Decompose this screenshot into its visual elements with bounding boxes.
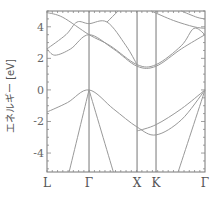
- band-curves: [47, 11, 205, 172]
- y-tick-minus-2: -2: [28, 115, 44, 128]
- band-conduction-5: [151, 11, 205, 28]
- band-valence-2: [137, 90, 205, 131]
- y-axis-label: エネルギー [eV]: [2, 36, 16, 156]
- y-tick-minus-4: -4: [28, 147, 44, 160]
- band-valence-5: [178, 90, 205, 172]
- y-tick-2: 2: [28, 52, 44, 65]
- x-tick-gamma-end: Γ: [198, 176, 212, 190]
- high-symmetry-lines: [89, 11, 156, 172]
- x-tick-K: K: [149, 176, 163, 190]
- band-valence-3: [69, 90, 89, 172]
- band-valence-1: [47, 90, 205, 135]
- band-conduction-1: [47, 35, 205, 69]
- band-conduction-3: [47, 21, 137, 65]
- band-conduction-4: [107, 11, 118, 22]
- x-tick-gamma: Γ: [82, 176, 96, 190]
- x-tick-X: X: [130, 176, 144, 190]
- band-valence-4: [89, 90, 113, 172]
- plot-frame: [47, 11, 205, 172]
- axis-minor-ticks: [47, 11, 205, 172]
- y-tick-0: 0: [28, 84, 44, 97]
- y-tick-4: 4: [28, 21, 44, 34]
- x-tick-L: L: [40, 176, 54, 190]
- band-conduction-6: [181, 11, 205, 19]
